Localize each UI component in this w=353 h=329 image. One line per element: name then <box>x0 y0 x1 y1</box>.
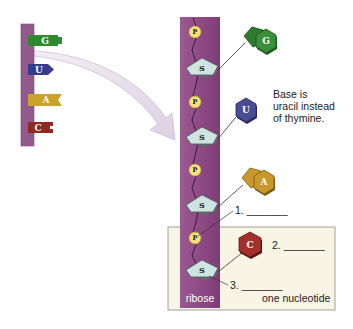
svg-text:Base is: Base is <box>273 88 307 100</box>
svg-text:2. _______: 2. _______ <box>272 239 325 251</box>
svg-text:A: A <box>42 95 51 105</box>
phosphate-4: P <box>189 232 201 244</box>
svg-text:A: A <box>260 177 269 187</box>
svg-text:S: S <box>199 200 205 210</box>
svg-text:P: P <box>193 166 198 174</box>
base-u-uracil: U <box>236 98 257 124</box>
mini-tab-c: C <box>28 122 53 133</box>
svg-text:C: C <box>34 123 41 133</box>
phosphate-2: P <box>189 96 201 108</box>
base-g-guanine: G <box>244 27 277 55</box>
svg-text:C: C <box>246 240 253 250</box>
blank-label-3: 3. _______ <box>230 279 283 291</box>
phosphate-1: P <box>189 26 201 38</box>
mini-tab-g: G <box>28 35 62 46</box>
svg-text:U: U <box>35 65 43 75</box>
svg-text:1. _______: 1. _______ <box>235 204 288 216</box>
phosphate-3: P <box>189 164 201 176</box>
svg-text:P: P <box>193 28 198 36</box>
blank-label-1: 1. _______ <box>235 204 288 216</box>
svg-text:3. _______: 3. _______ <box>230 279 283 291</box>
svg-text:uracil instead: uracil instead <box>273 100 335 112</box>
one-nucleotide-label: one nucleotide <box>262 292 330 304</box>
blank-label-2: 2. _______ <box>272 239 325 251</box>
svg-text:G: G <box>262 36 270 46</box>
svg-text:ribose: ribose <box>186 292 215 304</box>
mini-rna-strand: G U A C <box>21 24 62 146</box>
svg-text:S: S <box>199 63 205 73</box>
base-a-adenine: A <box>242 168 275 196</box>
svg-text:of thymine.: of thymine. <box>273 112 324 124</box>
mini-tab-a: A <box>28 94 62 106</box>
svg-text:P: P <box>193 98 198 106</box>
svg-text:G: G <box>41 36 49 46</box>
svg-text:P: P <box>193 234 198 242</box>
svg-text:one nucleotide: one nucleotide <box>262 292 330 304</box>
svg-text:S: S <box>199 265 205 275</box>
mini-tab-u: U <box>28 64 54 75</box>
ribose-label: ribose <box>186 292 215 304</box>
uracil-note: Base is uracil instead of thymine. <box>273 88 335 124</box>
svg-text:U: U <box>242 105 250 115</box>
svg-text:S: S <box>199 132 205 142</box>
